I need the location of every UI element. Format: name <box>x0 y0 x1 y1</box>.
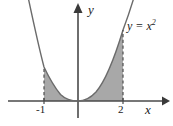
curve-equation-exponent: 2 <box>152 18 156 27</box>
parabola-area-figure: y x y = x2 -1 2 <box>0 0 173 126</box>
x-axis-arrow-icon <box>162 97 170 106</box>
curve-equation-label: y = x2 <box>127 19 156 32</box>
y-axis-arrow-icon <box>74 3 83 13</box>
x-axis-label: x <box>145 103 151 116</box>
x-tick-label-neg1: -1 <box>36 103 45 115</box>
x-tick-label-2: 2 <box>118 103 124 115</box>
y-axis-label: y <box>88 3 94 16</box>
curve-equation-base: y = x <box>127 19 152 33</box>
